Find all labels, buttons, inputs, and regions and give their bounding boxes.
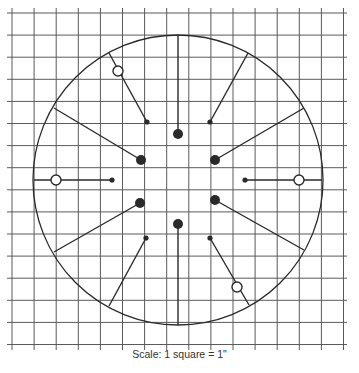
large-dot-marker: [210, 155, 220, 165]
spoke-upper-left: [54, 108, 141, 160]
spoke-lower-left: [54, 203, 140, 252]
large-dot-marker: [136, 155, 146, 165]
spoke-upper-right: [215, 108, 304, 160]
open-marker-left: [51, 175, 61, 185]
small-dot-marker: [144, 119, 149, 124]
spokes: [34, 35, 322, 325]
open-marker-lower-right: [232, 282, 242, 292]
small-dot-marker: [207, 119, 212, 124]
small-dot-marker: [143, 235, 148, 240]
large-dot-marker: [173, 219, 183, 229]
spoke-lower-left-short: [109, 238, 146, 306]
spoke-upper-right-short: [210, 53, 248, 122]
small-dot-marker: [109, 177, 114, 182]
small-dot-marker: [207, 235, 212, 240]
spoke-lower-right: [215, 200, 304, 250]
large-dot-marker: [173, 129, 183, 139]
radial-layout-diagram: [0, 0, 359, 373]
large-dot-marker: [210, 195, 220, 205]
open-marker-right: [294, 175, 304, 185]
spoke-upper-left-short: [109, 53, 147, 122]
scale-caption: Scale: 1 square = 1": [0, 348, 359, 360]
large-dot-marker: [135, 198, 145, 208]
small-dot-marker: [242, 177, 247, 182]
spoke-lower-right-short: [210, 238, 249, 305]
open-marker-upper-left: [113, 66, 123, 76]
